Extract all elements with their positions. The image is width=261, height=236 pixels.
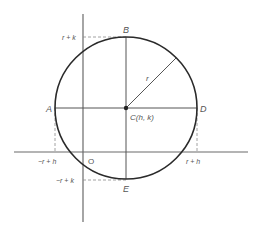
center-point bbox=[124, 106, 128, 110]
label-point-a: A bbox=[45, 104, 52, 114]
label-origin: O bbox=[88, 157, 94, 166]
label-tick-neg-r-plus-k: −r + k bbox=[56, 177, 74, 184]
label-point-e: E bbox=[123, 184, 130, 194]
label-tick-neg-r-plus-h: −r + h bbox=[38, 158, 56, 165]
radius-line bbox=[126, 58, 176, 108]
label-point-d: D bbox=[200, 104, 207, 114]
label-tick-r-plus-h: r + h bbox=[186, 158, 200, 165]
label-point-b: B bbox=[123, 25, 129, 35]
label-tick-r-plus-k: r + k bbox=[62, 34, 76, 41]
circle-diagram: A B D E C(h, k) r O r + k −r + k −r + h … bbox=[0, 0, 261, 236]
label-center: C(h, k) bbox=[130, 113, 154, 122]
label-radius: r bbox=[146, 74, 149, 83]
